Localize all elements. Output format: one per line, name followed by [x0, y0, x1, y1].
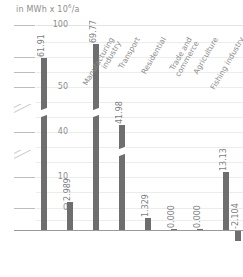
bar-value-manufacturing-industry: 61.91: [38, 15, 45, 57]
ytick-rule: [14, 208, 35, 209]
bar-value-a-plus: -2.104: [232, 185, 239, 229]
ytick-label-100: 100: [42, 21, 68, 29]
axis-unit-label: in MWh x 106/a: [16, 3, 80, 14]
ytick-rule: [14, 87, 35, 88]
bar-manufacturing-industry: [41, 58, 47, 230]
bar-agriculture: [145, 218, 151, 230]
gridline: [36, 102, 243, 103]
bar-a-plus: [235, 231, 241, 241]
bar-trade-and-commerce: [119, 125, 125, 230]
ytick-rule: [14, 132, 35, 133]
ytick-rule: [14, 25, 35, 26]
axis-break-lower: [14, 150, 36, 163]
bar-value-trade-and-commerce: 41.98: [116, 82, 123, 124]
ytick-rule: [14, 72, 35, 73]
bar-value-residential: 69.77: [90, 1, 97, 43]
gridline: [36, 147, 243, 148]
x-axis-baseline: [14, 230, 243, 231]
axis-unit-suffix: /a: [72, 5, 80, 14]
axis-unit-prefix: in MWh x 10: [16, 5, 68, 14]
bar-value-others: 0.000: [194, 186, 201, 228]
plot-area: 100 50 40 10 0 61.91 2.989 69.77 41.98 1…: [36, 20, 243, 210]
gridline: [36, 117, 243, 118]
bar-chart: in MWh x 106/a 100 50: [0, 0, 243, 277]
bar-value-losses: 13.13: [220, 129, 227, 171]
bar-value-transport: 2.989: [64, 159, 71, 201]
ytick-rule: [14, 57, 35, 58]
axis-break-upper: [14, 104, 36, 117]
ytick-rule: [14, 177, 35, 178]
bar-value-agriculture: 1.329: [142, 175, 149, 217]
bar-losses: [223, 172, 229, 230]
bar-transport: [67, 202, 73, 230]
bar-value-fishing-industry: 0.000: [168, 186, 175, 228]
gridline: [36, 57, 243, 58]
